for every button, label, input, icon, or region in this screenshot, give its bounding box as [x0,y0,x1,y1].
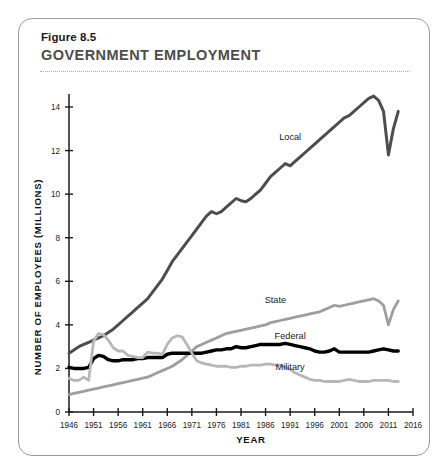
x-axis-title: YEAR [236,434,265,445]
series-label-federal: Federal [275,331,306,341]
y-tick-label: 4 [55,321,60,330]
x-tick-label: 1976 [207,421,226,430]
series-line-federal [69,343,398,368]
x-tick-label: 2001 [330,421,349,430]
x-tick-label: 2006 [355,421,374,430]
y-tick-label: 12 [51,147,61,156]
y-tick-label: 0 [55,408,60,417]
y-tick-label: 8 [55,234,60,243]
series-line-local [69,96,398,353]
x-tick-label: 1981 [232,421,251,430]
x-tick-label: 1956 [109,421,128,430]
series-label-local: Local [279,132,301,142]
series-labels: LocalStateFederalMilitary [265,132,306,372]
x-tick-label: 1991 [281,421,300,430]
y-tick-label: 2 [55,364,60,373]
x-tick-label: 1966 [158,421,177,430]
chart-area: 02468101214 1946195119561961196619711976… [19,19,431,457]
x-tick-label: 1951 [84,421,103,430]
x-tick-label: 1961 [134,421,153,430]
series-lines [69,96,398,394]
series-label-state: State [265,295,286,305]
figure-card: Figure 8.5 GOVERNMENT EMPLOYMENT 0246810… [18,18,430,456]
x-tick-label: 2011 [380,421,398,430]
series-label-military: Military [276,362,305,372]
x-tick-label: 1971 [183,421,202,430]
y-tick-label: 14 [51,103,61,112]
x-tick-label: 1946 [60,421,79,430]
x-tick-label: 1986 [256,421,275,430]
y-axis-title: NUMBER OF EMPLOYEES (MILLIONS) [32,179,43,375]
series-line-military [69,334,398,382]
y-tick-label: 6 [55,277,60,286]
x-tick-label: 2016 [404,421,423,430]
y-tick-label: 10 [51,190,61,199]
x-tick-label: 1996 [306,421,325,430]
line-chart: 02468101214 1946195119561961196619711976… [19,19,431,457]
